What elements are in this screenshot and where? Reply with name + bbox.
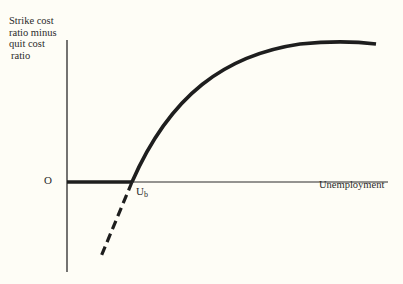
ub-label: Ub <box>136 185 148 199</box>
ub-label-main: U <box>136 185 144 197</box>
ub-label-subscript: b <box>144 190 148 199</box>
x-axis-label: Unemployment <box>319 179 384 190</box>
origin-label: O <box>44 174 52 186</box>
chart-plot-area <box>0 0 403 284</box>
dashed-extension-line <box>100 182 132 259</box>
cost-ratio-curve <box>132 42 376 182</box>
